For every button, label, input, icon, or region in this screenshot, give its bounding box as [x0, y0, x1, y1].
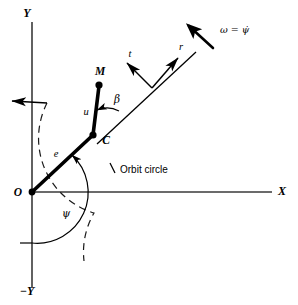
psi-arc-path: [32, 155, 88, 243]
t-vector-arrow: [127, 63, 152, 88]
orbit-direction-arrow: [12, 101, 47, 103]
origin-point-label: O: [14, 186, 22, 198]
unit-vector-pair: [127, 58, 178, 88]
x-axis-label: X: [277, 184, 287, 198]
coordinate-axes: [32, 22, 272, 288]
outward-ray-line: [97, 52, 196, 144]
y-axis-label: Y: [23, 6, 32, 20]
angular-velocity-label: ω = ψ̇: [220, 24, 250, 35]
r-vector-label: r: [179, 41, 184, 52]
negative-y-axis-label: −Y: [20, 284, 36, 298]
beta-angle-label: β: [113, 93, 120, 105]
radial-arm-e: [32, 135, 93, 192]
e-vector-label: e: [54, 148, 59, 159]
kinematics-diagram-figure: Y −Y X O C M e u t r β ψ Orbit circle ω …: [0, 0, 298, 305]
psi-angle-label: ψ: [62, 207, 71, 219]
orbit-circle-arc: [12, 101, 94, 261]
center-point-dot: [89, 131, 96, 138]
orbit-circle-path: [39, 103, 94, 261]
mass-point-label: M: [94, 65, 106, 77]
center-point-label: C: [102, 134, 110, 146]
angular-velocity-arrow: [189, 26, 213, 48]
orbit-circle-leader: [110, 163, 115, 173]
u-vector-label: u: [83, 106, 88, 117]
offset-arm-u: [93, 86, 99, 135]
diagram-canvas: Y −Y X O C M e u t r β ψ Orbit circle ω …: [0, 0, 298, 305]
orbit-circle-caption: Orbit circle: [120, 164, 168, 175]
radial-arm-line: [32, 135, 93, 192]
origin-point-dot: [29, 189, 36, 196]
t-vector-label: t: [129, 48, 133, 59]
beta-arc-path: [97, 108, 119, 111]
offset-arm-line: [93, 86, 99, 135]
psi-angle-arc: [20, 155, 88, 243]
mass-point-dot: [95, 81, 102, 88]
outward-ray: [97, 52, 196, 144]
